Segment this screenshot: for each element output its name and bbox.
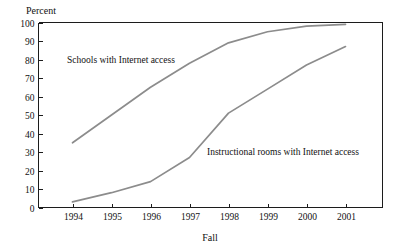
x-tick-label: 2000 <box>298 212 317 222</box>
x-tick-label: 2001 <box>337 212 356 222</box>
y-tick-label: 60 <box>25 93 35 103</box>
x-tick-marks <box>74 204 347 208</box>
x-tick-label: 1995 <box>103 212 122 222</box>
series-annotation-label: Instructional rooms with Internet access <box>207 147 359 157</box>
y-tick-label: 30 <box>25 148 35 158</box>
y-tick-label: 50 <box>25 111 35 121</box>
series-line <box>73 47 346 202</box>
x-tick-label: 1994 <box>64 212 83 222</box>
x-tick-label: 1998 <box>220 212 239 222</box>
x-tick-label: 1996 <box>142 212 161 222</box>
y-tick-label: 80 <box>25 56 35 66</box>
series-annotations: Schools with Internet accessInstructiona… <box>67 55 359 157</box>
y-tick-label: 10 <box>25 185 35 195</box>
y-tick-label: 0 <box>30 204 35 214</box>
y-tick-marks <box>39 24 43 209</box>
line-chart: 0102030405060708090100 19941995199619971… <box>0 0 398 248</box>
plot-frame <box>39 23 383 208</box>
y-tick-label: 100 <box>20 19 35 29</box>
y-tick-label: 20 <box>25 167 35 177</box>
series-group <box>73 24 346 202</box>
y-tick-labels: 0102030405060708090100 <box>20 19 35 214</box>
series-line <box>73 24 346 142</box>
x-axis-title: Fall <box>202 232 218 243</box>
chart-figure: 0102030405060708090100 19941995199619971… <box>0 0 398 248</box>
y-tick-label: 70 <box>25 74 35 84</box>
x-tick-label: 1997 <box>181 212 200 222</box>
y-tick-label: 90 <box>25 37 35 47</box>
series-annotation-label: Schools with Internet access <box>67 55 175 65</box>
y-tick-label: 40 <box>25 130 35 140</box>
x-tick-label: 1999 <box>259 212 278 222</box>
y-axis-title: Percent <box>26 5 56 16</box>
x-tick-labels: 19941995199619971998199920002001 <box>64 212 356 222</box>
